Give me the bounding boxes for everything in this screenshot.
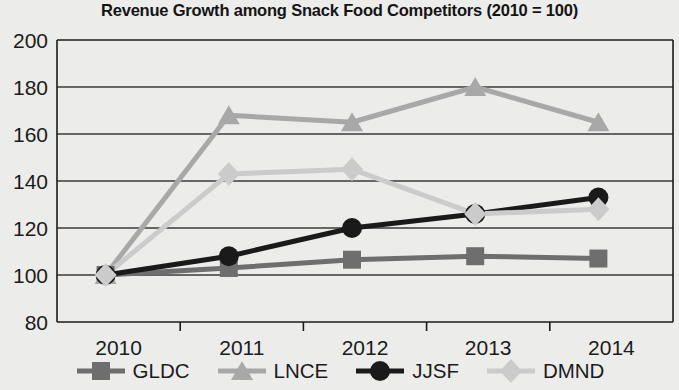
legend-item-dmnd[interactable]: DMND xyxy=(485,358,605,384)
legend-label: LNCE xyxy=(274,361,329,382)
y-axis-label: 140 xyxy=(13,170,48,193)
chart-container: Revenue Growth among Snack Food Competit… xyxy=(0,0,679,390)
legend-marker-shape xyxy=(370,361,390,381)
y-axis-label: 80 xyxy=(25,311,48,334)
legend-marker-diamond-icon xyxy=(485,358,537,384)
x-axis-label: 2014 xyxy=(588,336,635,359)
legend-label: DMND xyxy=(543,361,605,382)
y-axis-label: 120 xyxy=(13,217,48,240)
x-axis-label: 2011 xyxy=(219,336,264,359)
y-axis-label: 200 xyxy=(13,29,48,52)
legend-marker-circle-icon xyxy=(354,358,406,384)
data-point-dmnd-2013 xyxy=(464,202,486,226)
legend-marker-square-icon xyxy=(75,358,127,384)
x-tick-marks-group xyxy=(180,322,550,331)
y-axis-label: 180 xyxy=(13,76,48,99)
x-axis-label: 2012 xyxy=(342,336,389,359)
x-axis-label: 2010 xyxy=(95,336,142,359)
data-point-jjsf-2012 xyxy=(342,218,362,238)
data-point-gldc-2012 xyxy=(343,251,361,269)
y-axis-tick-labels: 80100120140160180200 xyxy=(13,29,48,334)
chart-legend: GLDCLNCEJJSFDMND xyxy=(0,358,679,384)
data-point-jjsf-2011 xyxy=(219,246,239,266)
x-axis-tick-labels: 20102011201220132014 xyxy=(95,336,635,359)
legend-marker-shape xyxy=(500,359,522,383)
x-axis-label: 2013 xyxy=(465,336,512,359)
data-point-gldc-2014 xyxy=(589,250,607,268)
legend-label: JJSF xyxy=(412,361,459,382)
data-point-dmnd-2012 xyxy=(341,157,363,181)
y-axis-label: 160 xyxy=(13,123,48,146)
legend-marker-triangle-icon xyxy=(216,358,268,384)
legend-label: GLDC xyxy=(133,361,190,382)
y-axis-label: 100 xyxy=(13,264,48,287)
line-chart-plot: 80100120140160180200 2010201120122013201… xyxy=(0,0,679,360)
legend-marker-shape xyxy=(92,362,110,380)
legend-item-lnce[interactable]: LNCE xyxy=(216,358,329,384)
legend-item-gldc[interactable]: GLDC xyxy=(75,358,190,384)
legend-item-jjsf[interactable]: JJSF xyxy=(354,358,459,384)
data-point-gldc-2013 xyxy=(466,247,484,265)
